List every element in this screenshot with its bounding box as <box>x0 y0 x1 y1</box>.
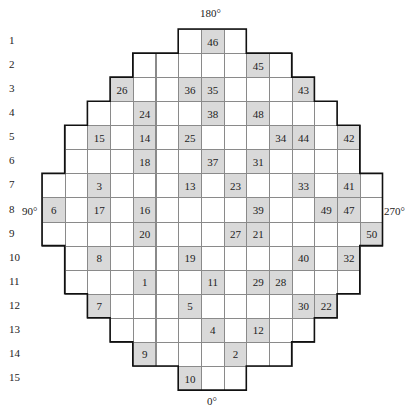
core-boundary-line <box>42 29 383 390</box>
core-outline <box>0 0 411 413</box>
core-map-diagram: 180° 0° 90° 270° 123456789101112131415 4… <box>0 0 411 413</box>
